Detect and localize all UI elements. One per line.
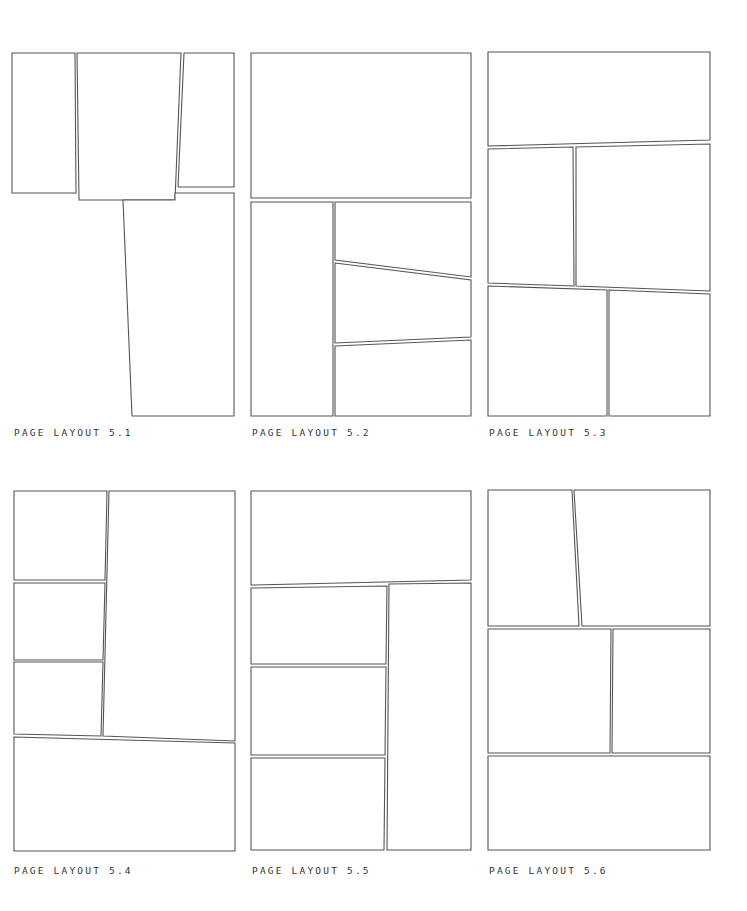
panel	[14, 491, 107, 580]
panel	[488, 490, 579, 626]
panel	[387, 583, 471, 850]
panel	[488, 756, 710, 850]
panel	[609, 290, 710, 416]
panel	[178, 53, 234, 187]
panel	[12, 53, 76, 193]
layout-sheet	[0, 0, 747, 911]
layout-label-5-4: PAGE LAYOUT 5.4	[14, 866, 133, 876]
layout-5-2	[251, 53, 471, 416]
panel	[14, 662, 103, 736]
panel	[251, 667, 386, 755]
panel	[14, 737, 235, 851]
layout-label-5-6: PAGE LAYOUT 5.6	[489, 866, 608, 876]
layout-label-5-3: PAGE LAYOUT 5.3	[489, 428, 608, 438]
panel	[488, 629, 611, 753]
panel	[14, 583, 105, 660]
layout-5-1	[12, 53, 234, 416]
layout-5-3	[488, 52, 710, 416]
layout-label-5-5: PAGE LAYOUT 5.5	[252, 866, 371, 876]
panel	[488, 52, 710, 146]
panel	[103, 491, 235, 741]
panel	[612, 629, 710, 753]
layout-label-5-1: PAGE LAYOUT 5.1	[14, 428, 133, 438]
layout-5-4	[14, 491, 235, 851]
panel	[251, 491, 471, 585]
panel	[335, 340, 471, 416]
panel	[251, 758, 385, 850]
panel	[576, 144, 710, 291]
panel	[488, 147, 574, 286]
panel	[574, 490, 710, 626]
panel	[251, 586, 387, 664]
layout-5-5	[251, 491, 471, 850]
panel	[77, 53, 181, 200]
layout-label-5-2: PAGE LAYOUT 5.2	[252, 428, 371, 438]
panel	[251, 202, 333, 416]
panel	[251, 53, 471, 198]
panel	[488, 286, 607, 416]
layout-5-6	[488, 490, 710, 850]
panel	[123, 193, 234, 416]
